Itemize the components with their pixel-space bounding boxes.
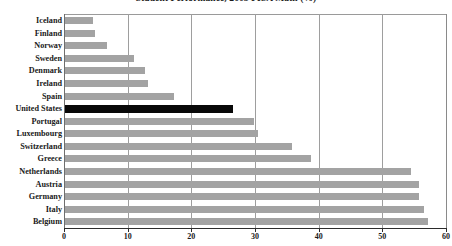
bar-row bbox=[64, 140, 446, 153]
category-label-luxembourg: Luxembourg bbox=[0, 127, 62, 140]
bar-italy bbox=[64, 206, 424, 213]
bar-row bbox=[64, 64, 446, 77]
x-tick-label-40: 40 bbox=[315, 232, 323, 241]
category-label-switzerland: Switzerland bbox=[0, 140, 62, 153]
bar-row bbox=[64, 77, 446, 90]
chart-title: Student Performance, 2003 PISA Math (%) bbox=[0, 0, 452, 3]
bar-ireland bbox=[64, 80, 148, 87]
bar-row bbox=[64, 39, 446, 52]
bar-switzerland bbox=[64, 143, 292, 150]
bar-sweden bbox=[64, 55, 134, 62]
bar-netherlands bbox=[64, 168, 411, 175]
bar-luxembourg bbox=[64, 130, 258, 137]
x-tick-label-0: 0 bbox=[62, 232, 66, 241]
bar-spain bbox=[64, 93, 174, 100]
bar-row bbox=[64, 115, 446, 128]
x-tick-label-60: 60 bbox=[442, 232, 450, 241]
bar-portugal bbox=[64, 118, 254, 125]
gridline-60 bbox=[446, 14, 447, 228]
chart-container: Student Performance, 2003 PISA Math (%) … bbox=[0, 0, 452, 246]
category-label-austria: Austria bbox=[0, 178, 62, 191]
category-label-finland: Finland bbox=[0, 27, 62, 40]
bar-row bbox=[64, 152, 446, 165]
x-axis-line bbox=[64, 228, 447, 229]
category-label-spain: Spain bbox=[0, 90, 62, 103]
category-label-belgium: Belgium bbox=[0, 215, 62, 228]
bar-row bbox=[64, 215, 446, 228]
bar-row bbox=[64, 102, 446, 115]
category-label-denmark: Denmark bbox=[0, 64, 62, 77]
bar-united-states bbox=[64, 105, 233, 113]
y-axis-line bbox=[64, 14, 65, 228]
bar-row bbox=[64, 14, 446, 27]
bar-austria bbox=[64, 181, 419, 188]
bar-greece bbox=[64, 155, 311, 162]
bar-row bbox=[64, 190, 446, 203]
bar-row bbox=[64, 90, 446, 103]
x-tick-label-30: 30 bbox=[251, 232, 259, 241]
bar-row bbox=[64, 27, 446, 40]
category-label-netherlands: Netherlands bbox=[0, 165, 62, 178]
plot-area bbox=[64, 14, 446, 228]
category-label-ireland: Ireland bbox=[0, 77, 62, 90]
bar-belgium bbox=[64, 218, 428, 225]
bar-row bbox=[64, 127, 446, 140]
x-tick-label-50: 50 bbox=[378, 232, 386, 241]
bar-norway bbox=[64, 42, 107, 49]
category-label-united-states: United States bbox=[0, 102, 62, 115]
category-label-iceland: Iceland bbox=[0, 14, 62, 27]
category-label-norway: Norway bbox=[0, 39, 62, 52]
bar-row bbox=[64, 52, 446, 65]
x-axis-tick-labels: 0102030405060 bbox=[0, 232, 452, 246]
category-label-germany: Germany bbox=[0, 190, 62, 203]
bar-row bbox=[64, 178, 446, 191]
category-label-italy: Italy bbox=[0, 203, 62, 216]
bar-row bbox=[64, 203, 446, 216]
bar-finland bbox=[64, 30, 95, 37]
bar-series bbox=[64, 14, 446, 228]
category-label-sweden: Sweden bbox=[0, 52, 62, 65]
x-tick-label-20: 20 bbox=[187, 232, 195, 241]
category-label-greece: Greece bbox=[0, 152, 62, 165]
category-label-portugal: Portugal bbox=[0, 115, 62, 128]
bar-denmark bbox=[64, 67, 145, 74]
x-tick-label-10: 10 bbox=[124, 232, 132, 241]
bar-iceland bbox=[64, 17, 93, 24]
y-axis-category-labels: IcelandFinlandNorwaySwedenDenmarkIreland… bbox=[0, 14, 62, 228]
bar-row bbox=[64, 165, 446, 178]
bar-germany bbox=[64, 193, 419, 200]
